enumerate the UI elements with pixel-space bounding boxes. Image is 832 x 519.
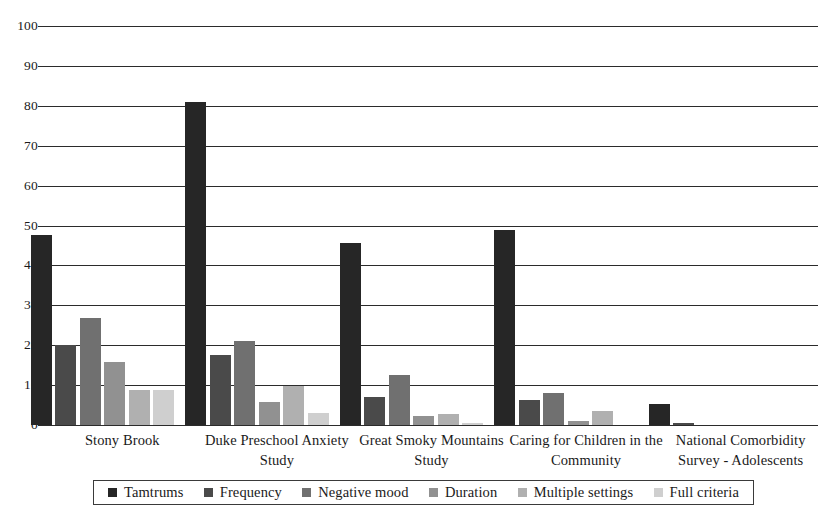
y-tick-label: 70 <box>0 139 38 153</box>
legend-item[interactable]: Tamtrums <box>108 485 183 500</box>
bar-group <box>200 26 355 425</box>
y-tick-mark <box>38 66 45 67</box>
legend-item[interactable]: Frequency <box>204 485 282 500</box>
legend-swatch-icon <box>654 488 663 497</box>
y-tick-label: 90 <box>0 59 38 73</box>
bar <box>80 318 101 425</box>
chart-legend: TamtrumsFrequencyNegative moodDurationMu… <box>93 480 754 505</box>
bar <box>462 423 483 425</box>
legend-item[interactable]: Negative mood <box>302 485 408 500</box>
legend-swatch-icon <box>518 488 527 497</box>
x-axis-category-label: Caring for Children in the Community <box>509 430 664 470</box>
y-tick-mark <box>38 26 45 27</box>
y-tick-mark <box>38 425 45 426</box>
y-tick-label: 100 <box>0 19 38 33</box>
legend-label: Full criteria <box>670 485 739 500</box>
bar <box>259 402 280 425</box>
legend-label: Frequency <box>220 485 282 500</box>
axis-baseline <box>45 425 818 426</box>
bar <box>673 423 694 425</box>
legend-item[interactable]: Duration <box>429 485 497 500</box>
legend-label: Multiple settings <box>534 485 634 500</box>
bar <box>210 355 231 425</box>
bar-group <box>663 26 818 425</box>
grouped-bar-chart: 1009080706050403020100 Stony BrookDuke P… <box>0 0 832 519</box>
y-tick-label: 80 <box>0 99 38 113</box>
bar-group <box>509 26 664 425</box>
plot-area <box>45 26 818 425</box>
x-axis-category-label: National Comorbidity Survey - Adolescent… <box>663 430 818 470</box>
legend-item[interactable]: Multiple settings <box>518 485 634 500</box>
y-tick-mark <box>38 146 45 147</box>
bar <box>389 375 410 425</box>
bar <box>364 397 385 425</box>
x-axis-category-label: Stony Brook <box>45 430 200 450</box>
bar <box>568 421 589 425</box>
bar <box>438 414 459 425</box>
y-tick-label: 60 <box>0 179 38 193</box>
bar-group <box>45 26 200 425</box>
bar <box>185 102 206 425</box>
bar <box>31 235 52 425</box>
bar-group <box>354 26 509 425</box>
bar <box>55 345 76 425</box>
y-tick-mark <box>38 226 45 227</box>
bar <box>283 386 304 425</box>
legend-swatch-icon <box>429 488 438 497</box>
legend-swatch-icon <box>302 488 311 497</box>
bar <box>649 404 670 425</box>
bar <box>234 341 255 425</box>
bar <box>592 411 613 425</box>
bar <box>494 230 515 425</box>
bar <box>153 390 174 425</box>
bar <box>308 413 329 425</box>
bar <box>129 390 150 425</box>
legend-label: Negative mood <box>318 485 408 500</box>
y-tick-label: 50 <box>0 219 38 233</box>
bar <box>519 400 540 425</box>
bar <box>543 393 564 425</box>
x-axis-category-label: Duke Preschool Anxiety Study <box>200 430 355 470</box>
y-tick-mark <box>38 186 45 187</box>
legend-label: Duration <box>445 485 497 500</box>
bar <box>340 243 361 425</box>
bar <box>413 416 434 425</box>
x-axis-labels: Stony BrookDuke Preschool Anxiety StudyG… <box>45 430 818 476</box>
y-tick-mark <box>38 106 45 107</box>
legend-item[interactable]: Full criteria <box>654 485 739 500</box>
legend-label: Tamtrums <box>124 485 183 500</box>
x-axis-category-label: Great Smoky Mountains Study <box>354 430 509 470</box>
bar <box>104 362 125 425</box>
legend-swatch-icon <box>204 488 213 497</box>
legend-swatch-icon <box>108 488 117 497</box>
